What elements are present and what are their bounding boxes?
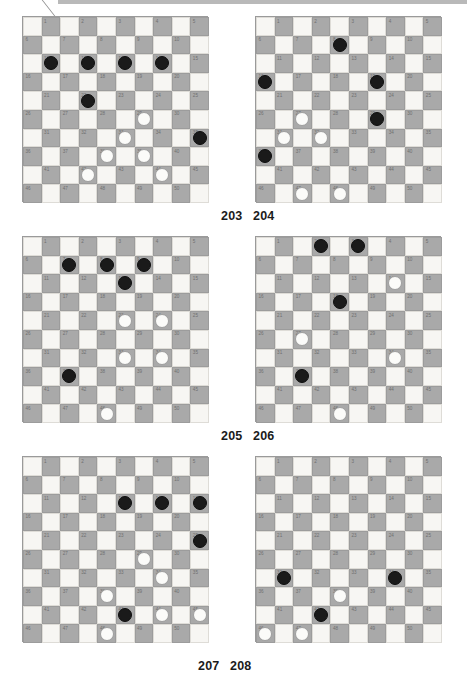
square-18[interactable]: 18 xyxy=(330,293,349,312)
black-piece-on-7[interactable] xyxy=(62,258,76,272)
square-23[interactable]: 23 xyxy=(116,91,135,110)
white-piece-on-34[interactable] xyxy=(155,351,169,365)
white-piece-on-32[interactable] xyxy=(314,131,328,145)
white-piece-on-39[interactable] xyxy=(137,149,151,163)
square-21[interactable]: 21 xyxy=(42,311,61,330)
square-15[interactable]: 15 xyxy=(423,494,442,513)
square-36[interactable]: 36 xyxy=(23,587,42,606)
square-1[interactable]: 1 xyxy=(42,457,61,476)
square-48[interactable]: 48 xyxy=(330,404,349,423)
square-18[interactable]: 18 xyxy=(97,73,116,92)
square-5[interactable]: 5 xyxy=(190,237,209,256)
square-6[interactable]: 6 xyxy=(256,36,275,55)
square-50[interactable]: 50 xyxy=(172,184,191,203)
square-35[interactable]: 35 xyxy=(190,569,209,588)
square-28[interactable]: 28 xyxy=(330,110,349,129)
square-41[interactable]: 41 xyxy=(42,386,61,405)
square-29[interactable]: 29 xyxy=(135,550,154,569)
square-10[interactable]: 10 xyxy=(405,36,424,55)
square-38[interactable]: 38 xyxy=(330,587,349,606)
square-22[interactable]: 22 xyxy=(79,311,98,330)
square-14[interactable]: 14 xyxy=(386,54,405,73)
square-21[interactable]: 21 xyxy=(275,531,294,550)
square-33[interactable]: 33 xyxy=(116,569,135,588)
square-37[interactable]: 37 xyxy=(293,367,312,386)
square-5[interactable]: 5 xyxy=(190,457,209,476)
white-piece-on-45[interactable] xyxy=(193,608,207,622)
square-37[interactable]: 37 xyxy=(60,147,79,166)
black-piece-on-31[interactable] xyxy=(277,571,291,585)
square-2[interactable]: 2 xyxy=(79,17,98,36)
white-piece-on-33[interactable] xyxy=(118,131,132,145)
square-40[interactable]: 40 xyxy=(172,367,191,386)
square-14[interactable]: 14 xyxy=(153,54,172,73)
draughts-board-206[interactable]: 1234567891011121314151617181920212223242… xyxy=(255,236,441,422)
square-34[interactable]: 34 xyxy=(153,569,172,588)
square-5[interactable]: 5 xyxy=(190,17,209,36)
square-29[interactable]: 29 xyxy=(368,550,387,569)
square-50[interactable]: 50 xyxy=(405,184,424,203)
square-37[interactable]: 37 xyxy=(293,587,312,606)
square-9[interactable]: 9 xyxy=(368,476,387,495)
black-piece-on-13[interactable] xyxy=(118,56,132,70)
square-15[interactable]: 15 xyxy=(190,274,209,293)
diagram-208[interactable]: 1234567891011121314151617181920212223242… xyxy=(255,456,441,642)
square-14[interactable]: 14 xyxy=(386,274,405,293)
black-piece-on-12[interactable] xyxy=(81,56,95,70)
square-26[interactable]: 26 xyxy=(256,110,275,129)
square-29[interactable]: 29 xyxy=(368,330,387,349)
square-43[interactable]: 43 xyxy=(349,166,368,185)
square-22[interactable]: 22 xyxy=(312,311,331,330)
square-27[interactable]: 27 xyxy=(60,550,79,569)
square-47[interactable]: 47 xyxy=(293,184,312,203)
white-piece-on-46[interactable] xyxy=(258,627,272,641)
square-29[interactable]: 29 xyxy=(135,330,154,349)
square-18[interactable]: 18 xyxy=(330,513,349,532)
square-33[interactable]: 33 xyxy=(116,129,135,148)
square-30[interactable]: 30 xyxy=(172,110,191,129)
square-47[interactable]: 47 xyxy=(293,404,312,423)
square-37[interactable]: 37 xyxy=(293,147,312,166)
square-38[interactable]: 38 xyxy=(330,147,349,166)
square-24[interactable]: 24 xyxy=(386,311,405,330)
square-8[interactable]: 8 xyxy=(97,256,116,275)
diagram-206[interactable]: 1234567891011121314151617181920212223242… xyxy=(255,236,441,422)
black-piece-on-18[interactable] xyxy=(333,295,347,309)
square-30[interactable]: 30 xyxy=(172,330,191,349)
square-25[interactable]: 25 xyxy=(190,531,209,550)
square-31[interactable]: 31 xyxy=(275,569,294,588)
square-24[interactable]: 24 xyxy=(386,531,405,550)
square-40[interactable]: 40 xyxy=(172,147,191,166)
square-48[interactable]: 48 xyxy=(97,624,116,643)
square-39[interactable]: 39 xyxy=(368,147,387,166)
white-piece-on-44[interactable] xyxy=(155,168,169,182)
square-44[interactable]: 44 xyxy=(153,386,172,405)
square-23[interactable]: 23 xyxy=(116,531,135,550)
white-piece-on-33[interactable] xyxy=(118,351,132,365)
square-44[interactable]: 44 xyxy=(153,606,172,625)
square-11[interactable]: 11 xyxy=(275,54,294,73)
square-40[interactable]: 40 xyxy=(405,367,424,386)
square-36[interactable]: 36 xyxy=(23,367,42,386)
square-16[interactable]: 16 xyxy=(256,513,275,532)
square-2[interactable]: 2 xyxy=(79,237,98,256)
square-17[interactable]: 17 xyxy=(293,513,312,532)
square-16[interactable]: 16 xyxy=(256,73,275,92)
square-24[interactable]: 24 xyxy=(153,531,172,550)
square-47[interactable]: 47 xyxy=(293,624,312,643)
white-piece-on-34[interactable] xyxy=(388,351,402,365)
square-15[interactable]: 15 xyxy=(190,54,209,73)
white-piece-on-44[interactable] xyxy=(155,608,169,622)
square-12[interactable]: 12 xyxy=(79,494,98,513)
square-13[interactable]: 13 xyxy=(349,274,368,293)
square-43[interactable]: 43 xyxy=(349,386,368,405)
black-piece-on-15[interactable] xyxy=(193,496,207,510)
black-piece-on-8[interactable] xyxy=(100,258,114,272)
square-1[interactable]: 1 xyxy=(42,237,61,256)
white-piece-on-42[interactable] xyxy=(81,168,95,182)
square-23[interactable]: 23 xyxy=(349,91,368,110)
draughts-board-204[interactable]: 1234567891011121314151617181920212223242… xyxy=(255,16,441,202)
black-piece-on-13[interactable] xyxy=(118,496,132,510)
draughts-board-203[interactable]: 1234567891011121314151617181920212223242… xyxy=(22,16,208,202)
square-6[interactable]: 6 xyxy=(256,256,275,275)
